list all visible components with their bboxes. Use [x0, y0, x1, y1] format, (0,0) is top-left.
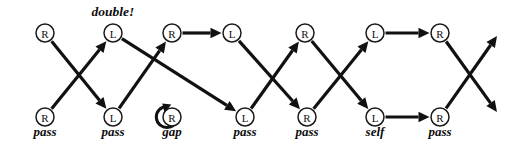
node-t3[interactable]: R [163, 24, 181, 42]
node-letter-t3: R [168, 28, 176, 40]
node-caption-b6: self [365, 124, 386, 139]
node-t1[interactable]: R [36, 24, 54, 42]
node-letter-b2: L [110, 112, 117, 124]
node-t2[interactable]: L [104, 24, 122, 42]
node-letter-b5: R [303, 112, 311, 124]
edge-t4-to-b5-shaft [239, 41, 293, 101]
edge-t1-to-b2-shaft [52, 41, 100, 100]
edge-t6-to-t7 [386, 28, 430, 38]
edge-b6-to-b7 [386, 112, 430, 122]
node-letter-t7: R [436, 28, 444, 40]
node-caption-b7: pass [427, 124, 451, 139]
edge-b5-to-t6-shaft [314, 50, 362, 109]
node-t7[interactable]: R [431, 24, 449, 42]
node-letter-t2: L [110, 28, 117, 40]
node-caption-b3: gap [161, 124, 182, 139]
node-caption-b2: pass [100, 124, 124, 139]
comparison-network-diagram: RLRLRLRRLRLRLR passpassgappasspassselfpa… [0, 0, 520, 142]
node-letter-b7: R [436, 112, 444, 124]
edge-t3-to-t4 [183, 28, 222, 38]
node-letter-t4: L [229, 28, 236, 40]
nodes-layer: RLRLRLRRLRLRLR [36, 24, 449, 126]
node-letter-t6: L [372, 28, 379, 40]
node-letter-b3: R [168, 112, 176, 124]
node-letter-t5: R [301, 28, 309, 40]
edge-b7-to-out-high [446, 36, 497, 108]
node-caption-b5: pass [294, 124, 318, 139]
edge-t7-to-out-low [446, 42, 497, 112]
edge-b2-to-t3-shaft [119, 51, 160, 109]
node-letter-b4: L [242, 112, 249, 124]
node-letter-b6: L [372, 112, 379, 124]
edge-t6-to-t7-arrowhead [419, 28, 430, 38]
edge-t2-to-b4 [122, 39, 236, 112]
node-t4[interactable]: L [223, 24, 241, 42]
diagram-canvas: RLRLRLRRLRLRLR passpassgappasspassselfpa… [0, 0, 520, 142]
annotation-a1: double! [92, 4, 135, 19]
node-t5[interactable]: R [296, 24, 314, 42]
node-caption-b1: pass [32, 124, 56, 139]
node-letter-b1: R [41, 112, 49, 124]
node-letter-t1: R [41, 28, 49, 40]
node-t6[interactable]: L [366, 24, 384, 42]
edge-b1-to-t2-shaft [52, 50, 100, 109]
edge-t2-to-b4-shaft [122, 39, 227, 106]
edge-t5-to-b6-shaft [312, 41, 362, 100]
edges-layer [52, 28, 497, 122]
edge-b7-to-out-high-shaft [446, 45, 491, 108]
edge-t7-to-out-low-shaft [446, 42, 490, 104]
edge-t3-to-t4-arrowhead [211, 28, 222, 38]
node-caption-b4: pass [232, 124, 256, 139]
edge-b6-to-b7-arrowhead [419, 112, 430, 122]
